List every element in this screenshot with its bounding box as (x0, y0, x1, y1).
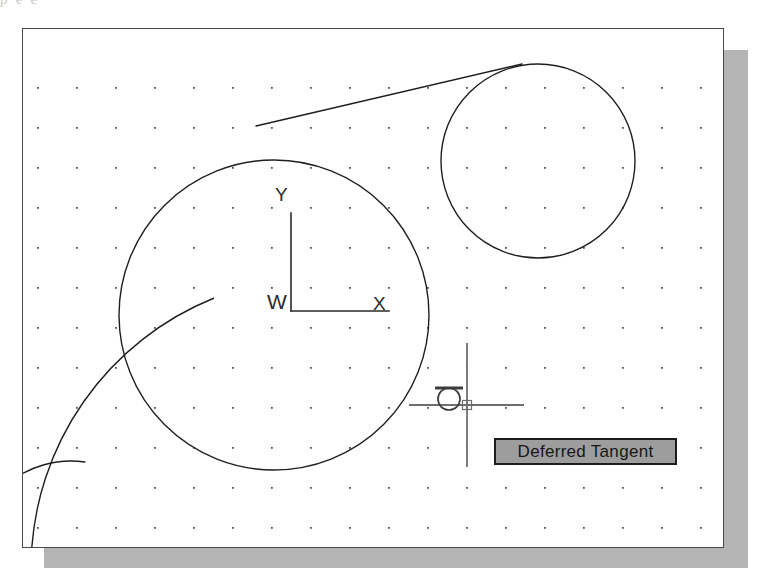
cad-drawing-area[interactable]: Y X W Deferred Tangent (22, 28, 724, 548)
osnap-tooltip: Deferred Tangent (494, 438, 677, 465)
osnap-tooltip-label: Deferred Tangent (518, 442, 654, 462)
tangent-osnap-circle (438, 388, 460, 410)
crosshair-cursor-layer[interactable] (23, 29, 723, 547)
scan-top-text-fragment: p e e (0, 0, 770, 7)
